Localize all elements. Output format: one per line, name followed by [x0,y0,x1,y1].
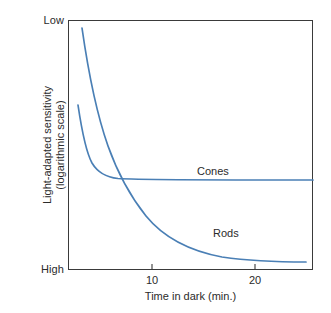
x-axis-title: Time in dark (min.) [68,290,313,303]
y-axis-title-line2: (logarithmic scale) [54,20,67,270]
plot-frame [68,20,313,270]
x-tick-label-10: 10 [137,274,167,286]
series-label-rods: Rods [213,227,239,239]
series-label-cones: Cones [197,165,229,177]
dark-adaptation-figure: Low High 10 20 Time in dark (min.) Light… [0,0,331,313]
y-axis-title: Light-adapted sensitivity (logarithmic s… [41,20,67,270]
x-tick-label-20: 20 [240,274,270,286]
y-axis-title-line1: Light-adapted sensitivity [41,86,53,204]
